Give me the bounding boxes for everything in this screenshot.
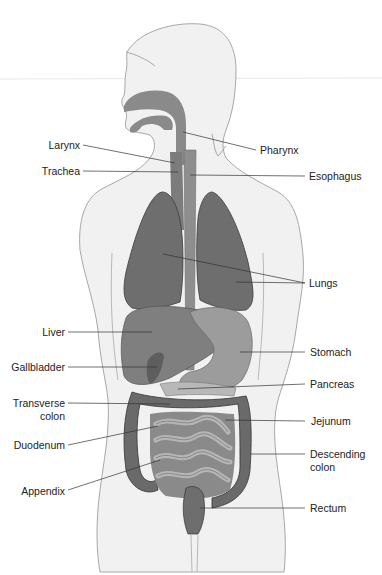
- label-appendix: Appendix: [0, 485, 65, 497]
- small-intestine: [150, 412, 235, 499]
- label-stomach: Stomach: [310, 346, 351, 358]
- label-liver: Liver: [20, 326, 65, 338]
- label-larynx: Larynx: [30, 139, 80, 151]
- label-transverse-colon-line2: colon: [0, 410, 65, 422]
- label-lungs: Lungs: [309, 277, 338, 289]
- rectum: [183, 487, 204, 535]
- label-descending-colon-line2: colon: [310, 461, 335, 473]
- label-duodenum: Duodenum: [0, 439, 65, 451]
- label-gallbladder: Gallbladder: [0, 361, 65, 373]
- label-rectum: Rectum: [310, 502, 346, 514]
- label-transverse-colon-line1: Transverse: [0, 397, 65, 409]
- label-pancreas: Pancreas: [310, 378, 354, 390]
- label-pharynx: Pharynx: [260, 144, 299, 156]
- label-esophagus: Esophagus: [309, 170, 362, 182]
- label-jejunum: Jejunum: [311, 415, 351, 427]
- label-descending-colon-line1: Descending: [310, 448, 365, 460]
- label-trachea: Trachea: [20, 165, 80, 177]
